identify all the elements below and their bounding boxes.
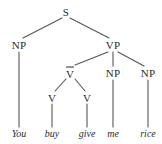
tree-node-vp: VP: [106, 40, 120, 51]
edge-group: [19, 18, 148, 127]
tree-edge-s-vp: [70, 18, 109, 38]
tree-leaf-w5: rice: [140, 129, 156, 139]
tree-node-np3: NP: [141, 68, 155, 79]
tree-edge-s-np1: [23, 18, 62, 38]
tree-node-v1: V: [48, 93, 56, 104]
tree-node-np2: NP: [106, 68, 120, 79]
tree-leaf-w4: me: [107, 129, 119, 139]
tree-edge-vbar-v1: [55, 79, 66, 91]
tree-edge-vp-vbar: [75, 52, 108, 65]
tree-node-np1: NP: [12, 40, 26, 51]
tree-node-v2: V: [83, 93, 91, 104]
tree-leaf-w3: give: [79, 129, 96, 139]
tree-leaf-w2: buy: [45, 129, 59, 139]
tree-edge-vp-np3: [118, 52, 144, 66]
tree-leaf-w1: You: [12, 129, 27, 139]
syntax-tree-diagram: SNPVPVNPNPVV Youbuygivemerice: [0, 0, 162, 144]
tree-node-vbar: V: [66, 67, 74, 80]
tree-edges-layer: [0, 0, 162, 144]
tree-node-s: S: [63, 7, 69, 18]
tree-edge-vbar-v2: [75, 79, 85, 91]
